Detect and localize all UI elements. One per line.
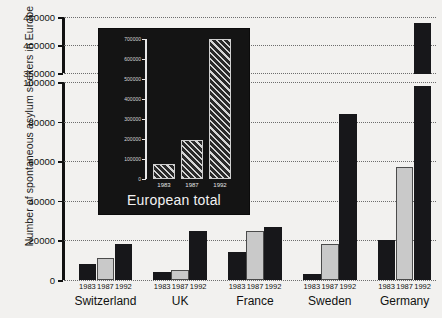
gridline [64,17,436,18]
inset-y-tick [142,119,146,120]
bar-switzerland-1983 [79,264,97,280]
x-axis: 198319871992Switzerland198319871992UK198… [62,282,436,318]
bar-germany-1983 [378,240,396,280]
x-axis-group-label-sweden: Sweden [289,294,371,308]
y-tick-label: 20000 [29,236,55,245]
y-tick [58,82,63,84]
y-axis-spine-lower [62,82,65,280]
inset-x-tick-label-1992: 1992 [206,182,234,188]
inset-y-tick-label: 400000 [124,97,141,102]
x-tick-label-germany-1992: 1992 [411,282,435,291]
bar-switzerland-1992 [115,244,133,280]
inset-panel: 0100000200000300000400000500000600000700… [98,28,250,215]
y-tick-label: 40000 [29,196,55,205]
inset-bar-1992 [209,39,231,179]
inset-y-tick-label: 700000 [124,37,141,42]
inset-y-tick-label: 300000 [124,117,141,122]
inset-y-tick-label: 0 [138,177,141,182]
y-tick-label: 450000 [23,13,55,22]
inset-y-tick [142,99,146,100]
bar-uk-1983 [153,272,171,280]
inset-x-tick-label-1983: 1983 [150,182,178,188]
y-tick-label: 0 [50,276,55,285]
bar-sweden-1987 [321,244,339,280]
inset-y-tick [142,179,146,180]
gridline [64,280,436,281]
y-tick-label: 80000 [29,117,55,126]
chart-figure: Number of spontaneous asylum seekers in … [0,0,442,318]
y-tick [58,45,63,47]
x-axis-group-label-germany: Germany [364,294,442,308]
inset-y-tick [142,59,146,60]
y-tick [58,17,63,19]
x-tick-label-france-1992: 1992 [261,282,285,291]
y-tick-label: 100000 [23,78,55,87]
inset-y-tick [142,139,146,140]
bar-sweden-1983 [303,274,321,280]
inset-plot-area: 0100000200000300000400000500000600000700… [145,39,241,179]
inset-title: European total [99,192,249,208]
inset-bar-1987 [181,140,203,179]
x-tick-label-uk-1992: 1992 [186,282,210,291]
y-tick-label: 60000 [29,157,55,166]
inset-y-tick [142,79,146,80]
inset-bar-1983 [153,164,175,179]
x-tick-label-switzerland-1992: 1992 [112,282,136,291]
x-tick-label-sweden-1992: 1992 [336,282,360,291]
y-tick [58,122,63,124]
bar-sweden-1992 [339,114,357,280]
bar-germany-1987 [396,167,414,280]
bar-germany-1992-upper [414,23,432,74]
bar-uk-1987 [171,270,189,280]
y-tick [58,240,63,242]
inset-y-tick-label: 100000 [124,157,141,162]
inset-y-tick-label: 500000 [124,77,141,82]
x-axis-group-label-uk: UK [139,294,221,308]
bar-france-1992 [264,227,282,280]
bar-switzerland-1987 [97,258,115,280]
inset-y-axis-spine [145,39,147,179]
y-tick-label: 350000 [23,69,55,78]
y-tick [58,73,63,75]
y-tick [58,201,63,203]
inset-y-tick-label: 200000 [124,137,141,142]
y-tick [58,161,63,163]
inset-y-tick [142,159,146,160]
inset-y-tick [142,39,146,40]
x-axis-group-label-switzerland: Switzerland [65,294,147,308]
x-axis-group-label-france: France [214,294,296,308]
y-tick-label: 400000 [23,41,55,50]
inset-x-tick-label-1987: 1987 [178,182,206,188]
bar-germany-1992-lower [414,86,432,280]
bar-france-1983 [228,252,246,280]
bar-france-1987 [246,231,264,281]
bar-uk-1992 [189,231,207,281]
inset-y-tick-label: 600000 [124,57,141,62]
